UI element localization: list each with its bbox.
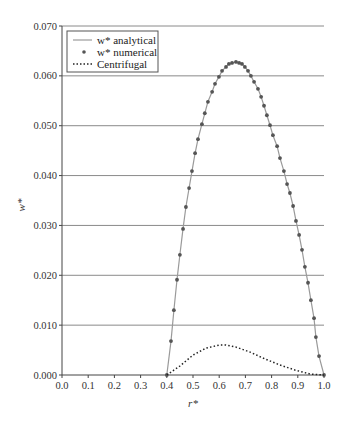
chart: 0.0000.0100.0200.0300.0400.0500.0600.070… bbox=[0, 0, 349, 424]
numerical-point bbox=[193, 151, 197, 155]
numerical-point bbox=[224, 65, 228, 69]
series-layer bbox=[165, 60, 326, 377]
numerical-point bbox=[175, 278, 179, 282]
numerical-point bbox=[220, 69, 224, 73]
numerical-point bbox=[285, 182, 289, 186]
numerical-point bbox=[190, 169, 194, 173]
x-tick-label: 0.1 bbox=[82, 380, 95, 391]
numerical-point bbox=[210, 90, 214, 94]
numerical-point bbox=[181, 227, 185, 231]
y-axis-label: w* bbox=[15, 198, 27, 211]
numerical-point bbox=[184, 205, 188, 209]
y-tick-label: 0.020 bbox=[33, 270, 57, 281]
numerical-point bbox=[300, 248, 304, 252]
numerical-point bbox=[314, 335, 318, 339]
x-axis-label: r* bbox=[188, 397, 198, 409]
numerical-point bbox=[262, 104, 266, 108]
numerical-point bbox=[243, 65, 247, 69]
y-tick-label: 0.040 bbox=[33, 170, 57, 181]
numerical-point bbox=[240, 62, 244, 66]
numerical-point bbox=[230, 61, 234, 65]
numerical-point bbox=[249, 74, 253, 78]
numerical-point bbox=[309, 298, 313, 302]
numerical-point bbox=[297, 233, 301, 237]
series-centrifugal-line bbox=[167, 345, 324, 375]
numerical-point bbox=[246, 69, 250, 73]
x-tick-labels: 0.00.10.20.30.40.50.60.70.80.91.0 bbox=[55, 380, 330, 391]
numerical-point bbox=[265, 113, 269, 117]
x-tick-label: 0.3 bbox=[134, 380, 147, 391]
numerical-point bbox=[291, 204, 295, 208]
numerical-point bbox=[196, 137, 200, 141]
numerical-point bbox=[200, 122, 204, 126]
x-tick-label: 0.9 bbox=[291, 380, 304, 391]
y-tick-label: 0.060 bbox=[33, 70, 57, 81]
y-tick-label: 0.030 bbox=[33, 220, 57, 231]
x-tick-label: 0.6 bbox=[213, 380, 226, 391]
numerical-point bbox=[317, 354, 321, 358]
legend-label-numerical: w* numerical bbox=[97, 46, 157, 58]
numerical-point bbox=[217, 75, 221, 79]
legend-label-analytical: w* analytical bbox=[97, 34, 156, 46]
numerical-point bbox=[252, 80, 256, 84]
x-tick-label: 1.0 bbox=[317, 380, 330, 391]
y-tick-label: 0.050 bbox=[33, 120, 57, 131]
numerical-point bbox=[271, 133, 275, 137]
x-tick-label: 0.8 bbox=[265, 380, 278, 391]
numerical-point bbox=[213, 82, 217, 86]
numerical-point bbox=[312, 316, 316, 320]
numerical-point bbox=[187, 186, 191, 190]
numerical-point bbox=[178, 253, 182, 257]
y-tick-labels: 0.0000.0100.0200.0300.0400.0500.0600.070 bbox=[33, 21, 57, 381]
legend-label-centrifugal: Centrifugal bbox=[97, 58, 147, 70]
numerical-point bbox=[268, 123, 272, 127]
numerical-point bbox=[256, 87, 260, 91]
numerical-point bbox=[275, 144, 279, 148]
numerical-point bbox=[259, 95, 263, 99]
legend: w* analytical w* numerical Centrifugal bbox=[67, 31, 158, 72]
numerical-point bbox=[306, 281, 310, 285]
y-tick-label: 0.000 bbox=[33, 370, 57, 381]
y-tick-label: 0.010 bbox=[33, 320, 57, 331]
numerical-point bbox=[294, 219, 298, 223]
series-analytical-line bbox=[167, 62, 324, 375]
numerical-point bbox=[206, 100, 210, 104]
x-tick-label: 0.4 bbox=[160, 380, 174, 391]
numerical-point bbox=[282, 169, 286, 173]
numerical-point bbox=[303, 265, 307, 269]
numerical-point bbox=[172, 308, 176, 312]
numerical-point bbox=[203, 111, 207, 115]
legend-dot-icon bbox=[82, 50, 86, 54]
numerical-point bbox=[288, 191, 292, 195]
x-tick-label: 0.5 bbox=[186, 380, 199, 391]
x-tick-label: 0.7 bbox=[239, 380, 252, 391]
numerical-point bbox=[278, 156, 282, 160]
y-tick-label: 0.070 bbox=[33, 21, 57, 32]
x-tick-label: 0.0 bbox=[55, 380, 68, 391]
x-tick-label: 0.2 bbox=[108, 380, 121, 391]
numerical-point bbox=[169, 339, 173, 343]
